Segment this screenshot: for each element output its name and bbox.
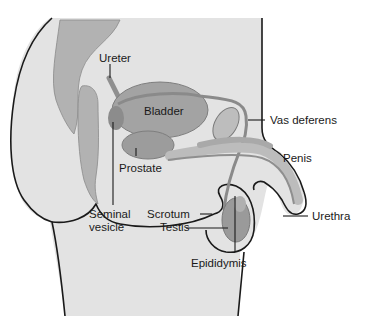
label-urethra: Urethra <box>312 210 351 222</box>
label-penis: Penis <box>283 152 312 164</box>
epididymis <box>234 196 246 212</box>
anatomy-diagram: Ureter Bladder Vas deferens Penis Prosta… <box>0 0 366 316</box>
label-epididymis: Epididymis <box>191 257 247 269</box>
label-testis: Testis <box>160 221 190 233</box>
seminal-vesicle <box>108 106 124 130</box>
label-prostate: Prostate <box>119 162 162 174</box>
label-bladder: Bladder <box>144 105 184 117</box>
label-ureter: Ureter <box>99 52 131 64</box>
label-seminal-vesicle-1: Seminal <box>89 208 131 220</box>
label-vas-deferens: Vas deferens <box>270 114 337 126</box>
label-scrotum: Scrotum <box>147 208 190 220</box>
label-seminal-vesicle-2: vesicle <box>89 221 124 233</box>
